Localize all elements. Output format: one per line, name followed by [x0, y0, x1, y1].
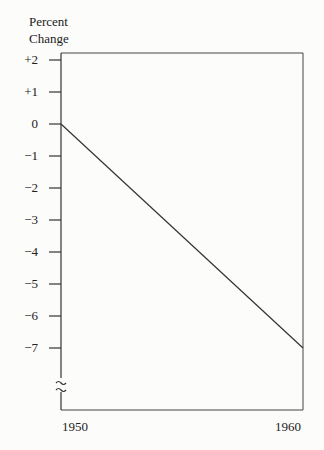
- x-tick-1950: 1950: [62, 419, 88, 435]
- x-tick-1960: 1960: [275, 419, 301, 435]
- y-tick-label: −3: [0, 212, 38, 228]
- series-line: [61, 124, 303, 348]
- y-tick-label: +2: [0, 52, 38, 68]
- y-tick-label: −1: [0, 148, 38, 164]
- y-tick-label: −4: [0, 244, 38, 260]
- y-tick-label: −2: [0, 180, 38, 196]
- y-tick-label: +1: [0, 84, 38, 100]
- y-tick-label: 0: [0, 116, 38, 132]
- y-tick-label: −5: [0, 276, 38, 292]
- y-tick-label: −7: [0, 340, 38, 356]
- y-tick-label: −6: [0, 308, 38, 324]
- chart-plot: [0, 0, 324, 450]
